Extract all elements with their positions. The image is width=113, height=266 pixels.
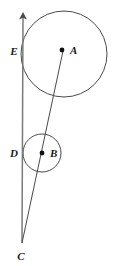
label-d: D (9, 147, 18, 159)
tangent-ray (22, 16, 23, 243)
point-b-dot (40, 151, 45, 156)
label-a: A (69, 44, 77, 56)
large-circle (21, 11, 107, 97)
label-b: B (49, 147, 57, 159)
geometry-figure: A B C D E (0, 0, 113, 266)
geometry-canvas: A B C D E (0, 0, 113, 266)
point-a-dot (60, 48, 65, 53)
label-e: E (9, 45, 17, 57)
label-c: C (17, 250, 25, 262)
